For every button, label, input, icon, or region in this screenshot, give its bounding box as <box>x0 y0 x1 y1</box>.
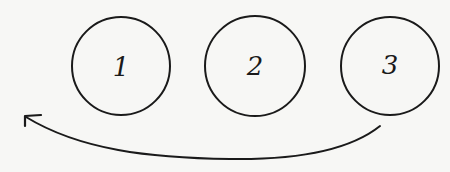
node-2: 2 <box>205 16 305 116</box>
node-label-2: 2 <box>246 51 264 81</box>
diagram-svg: 1 2 3 <box>0 0 450 172</box>
node-3: 3 <box>341 17 439 115</box>
arrow-3-to-1 <box>25 115 380 159</box>
node-label-3: 3 <box>382 50 399 80</box>
arrow-curve <box>26 117 380 159</box>
node-label-1: 1 <box>113 52 130 82</box>
diagram-canvas: 1 2 3 <box>0 0 450 172</box>
node-1: 1 <box>72 17 170 115</box>
